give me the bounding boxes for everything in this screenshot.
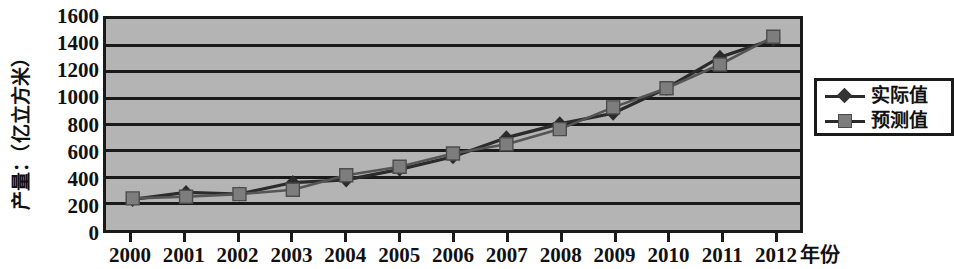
x-axis-tick-label: 2009 <box>584 242 646 268</box>
data-point-square <box>713 58 726 71</box>
x-axis-tick <box>506 233 509 242</box>
y-axis-tick-label: 600 <box>33 141 99 162</box>
x-axis-tick-label: 2005 <box>368 242 430 268</box>
x-axis-tick-label: 2004 <box>314 242 376 268</box>
x-axis-tick <box>237 233 240 242</box>
x-axis-tick-label: 2006 <box>422 242 484 268</box>
x-axis-tick <box>344 233 347 242</box>
series-line <box>133 37 774 199</box>
x-axis-tick-label: 2001 <box>153 242 215 268</box>
data-point-square <box>393 160 406 173</box>
y-axis-tick-label: 0 <box>33 223 99 244</box>
data-point-square <box>126 192 139 205</box>
x-axis-tick <box>129 233 132 242</box>
x-axis-tick-label: 2011 <box>691 242 753 268</box>
x-axis-tick <box>290 233 293 242</box>
x-axis-tick <box>721 233 724 242</box>
x-axis-tick-label: 2007 <box>476 242 538 268</box>
y-axis-tick-label: 400 <box>33 168 99 189</box>
chart-legend: 实际值 预测值 <box>814 78 954 136</box>
series-line <box>133 39 774 199</box>
x-axis-tick <box>398 233 401 242</box>
x-axis-tick-label: 2003 <box>260 242 322 268</box>
series-layer <box>106 19 800 230</box>
y-axis-tick-label: 200 <box>33 195 99 216</box>
data-point-square <box>286 183 299 196</box>
x-axis-tick <box>452 233 455 242</box>
x-axis-tick-label: 2002 <box>207 242 269 268</box>
plot-area <box>103 16 803 233</box>
data-point-square <box>180 190 193 203</box>
y-axis-title: 产量：（亿立方米） <box>9 14 35 244</box>
x-axis-tick-label: 2008 <box>530 242 592 268</box>
y-axis-tick-label: 1000 <box>33 87 99 108</box>
y-axis-tick-label: 1400 <box>33 33 99 54</box>
data-point-square <box>447 147 460 160</box>
data-point-square <box>607 101 620 114</box>
legend-label-predicted: 预测值 <box>871 110 928 132</box>
x-axis-tick <box>614 233 617 242</box>
x-axis-tick-labels: 2000200120022003200420052006200720082009… <box>103 242 803 269</box>
y-axis-tick-label: 1600 <box>33 6 99 27</box>
legend-label-actual: 实际值 <box>871 85 928 107</box>
data-point-square <box>660 82 673 95</box>
x-axis-tick <box>560 233 563 242</box>
diamond-marker-icon <box>825 85 865 107</box>
square-marker-icon <box>825 110 865 132</box>
y-axis-tick-labels: 02004006008001000120014001600 <box>33 5 99 245</box>
data-point-square <box>767 30 780 43</box>
y-axis-tick-label: 1200 <box>33 60 99 81</box>
x-axis-tick-label: 2010 <box>637 242 699 268</box>
x-axis-tick <box>775 233 778 242</box>
x-axis-title: 年份 <box>800 242 840 268</box>
y-axis-tick-label: 800 <box>33 114 99 135</box>
x-axis-tick <box>183 233 186 242</box>
legend-item-predicted: 预测值 <box>825 108 951 133</box>
data-point-square <box>500 138 513 151</box>
data-point-square <box>553 123 566 136</box>
x-axis-tick <box>667 233 670 242</box>
x-axis-tick-label: 2000 <box>99 242 161 268</box>
x-axis-tick-label: 2012 <box>745 242 807 268</box>
data-point-square <box>233 188 246 201</box>
data-point-square <box>340 169 353 182</box>
legend-item-actual: 实际值 <box>825 83 951 108</box>
